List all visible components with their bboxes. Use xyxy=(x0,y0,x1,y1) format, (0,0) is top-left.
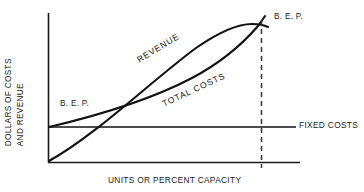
x-axis-label: UNITS OR PERCENT CAPACITY xyxy=(108,176,241,185)
bep-left-annotation: B. E. P. xyxy=(60,99,89,108)
y-axis-label-line2: AND REVENUE xyxy=(16,83,25,146)
y-axis-label: DOLLARS OF COSTS AND REVENUE xyxy=(4,26,20,146)
y-axis-label-line1: DOLLARS OF COSTS xyxy=(4,58,13,146)
break-even-chart: DOLLARS OF COSTS AND REVENUE UNITS OR PE… xyxy=(0,0,364,192)
total-costs-curve xyxy=(49,16,265,127)
bep-right-annotation: B. E. P. xyxy=(274,12,303,21)
fixed-costs-annotation: FIXED COSTS xyxy=(299,121,358,130)
